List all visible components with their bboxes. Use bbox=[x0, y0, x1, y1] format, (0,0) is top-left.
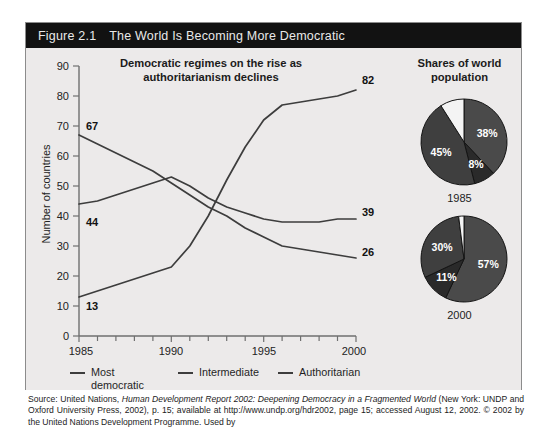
source-italic-title: Human Development Report 2002: Deepening… bbox=[122, 394, 436, 404]
pie-chart-1985: 38%8%45% bbox=[418, 96, 510, 188]
source-prefix: Source: United Nations, bbox=[28, 394, 122, 404]
y-axis-ticks bbox=[73, 66, 79, 336]
y-tick-20: 20 bbox=[57, 270, 69, 282]
x-tick-1990: 1990 bbox=[159, 345, 183, 357]
y-tick-30: 30 bbox=[57, 240, 69, 252]
x-tick-2000: 2000 bbox=[342, 345, 366, 357]
figure-box: Figure 2.1 The World Is Becoming More De… bbox=[25, 22, 522, 390]
pie-year-label-1985: 1985 bbox=[396, 192, 523, 204]
figure-page: Figure 2.1 The World Is Becoming More De… bbox=[0, 0, 548, 433]
pie-slice-label: 11% bbox=[436, 271, 457, 283]
y-tick-70: 70 bbox=[57, 120, 69, 132]
legend-item-most-democratic[interactable]: Most democratic bbox=[70, 366, 165, 392]
line-chart-svg: 0 10 20 30 40 50 60 70 80 90 1985 bbox=[26, 48, 396, 390]
figure-number: Figure 2.1 bbox=[38, 29, 96, 43]
pie-chart-2000: 57%11%30% bbox=[418, 213, 510, 305]
y-tick-0: 0 bbox=[63, 330, 69, 342]
pie-slice-label: 57% bbox=[478, 258, 500, 270]
value-label-39: 39 bbox=[362, 206, 374, 218]
y-tick-60: 60 bbox=[57, 150, 69, 162]
legend-item-intermediate[interactable]: Intermediate bbox=[178, 366, 278, 379]
pie-slice-label: 38% bbox=[477, 127, 499, 139]
y-tick-80: 80 bbox=[57, 90, 69, 102]
y-tick-50: 50 bbox=[57, 180, 69, 192]
value-label-44: 44 bbox=[86, 216, 99, 228]
y-tick-labels: 0 10 20 30 40 50 60 70 80 90 bbox=[57, 60, 69, 342]
pie-slice-label: 8% bbox=[468, 158, 484, 170]
x-axis-ticks bbox=[79, 336, 356, 342]
pie-slice-label: 30% bbox=[432, 241, 454, 253]
line-chart: Democratic regimes on the rise as author… bbox=[26, 48, 396, 390]
figure-body: Democratic regimes on the rise as author… bbox=[26, 48, 521, 390]
legend-swatch-icon bbox=[178, 372, 193, 374]
y-tick-90: 90 bbox=[57, 60, 69, 72]
source-note: Source: United Nations, Human Developmen… bbox=[28, 394, 524, 428]
legend-label-line1: Most bbox=[91, 366, 114, 378]
pie-slice-label: 45% bbox=[431, 146, 453, 158]
x-tick-labels: 1985 1990 1995 2000 bbox=[69, 345, 366, 357]
pie-charts-title-line1: Shares of world bbox=[396, 56, 523, 70]
figure-title: The World Is Becoming More Democratic bbox=[109, 29, 345, 43]
y-tick-10: 10 bbox=[57, 300, 69, 312]
legend-label-authoritarian: Authoritarian bbox=[299, 366, 360, 379]
pie-charts-section: Shares of world population 38%8%45% 1985… bbox=[396, 48, 523, 390]
legend-label-intermediate: Intermediate bbox=[199, 366, 259, 379]
pie-charts-title-line2: population bbox=[396, 70, 523, 84]
pie-charts-title: Shares of world population bbox=[396, 56, 523, 84]
value-label-26: 26 bbox=[362, 246, 374, 258]
value-label-82: 82 bbox=[362, 74, 374, 86]
y-tick-40: 40 bbox=[57, 210, 69, 222]
x-tick-1985: 1985 bbox=[69, 345, 93, 357]
data-series-group bbox=[79, 90, 356, 297]
value-label-13: 13 bbox=[86, 300, 98, 312]
value-labels: 67 44 13 82 39 26 bbox=[86, 74, 374, 312]
x-tick-1995: 1995 bbox=[252, 345, 276, 357]
pie-year-label-2000: 2000 bbox=[396, 309, 523, 321]
value-label-67: 67 bbox=[86, 120, 98, 132]
legend-swatch-icon bbox=[278, 372, 293, 374]
legend-item-authoritarian[interactable]: Authoritarian bbox=[278, 366, 388, 379]
legend-label-line2: democratic bbox=[91, 379, 144, 391]
legend-swatch-icon bbox=[70, 372, 85, 374]
figure-header: Figure 2.1 The World Is Becoming More De… bbox=[26, 23, 521, 48]
